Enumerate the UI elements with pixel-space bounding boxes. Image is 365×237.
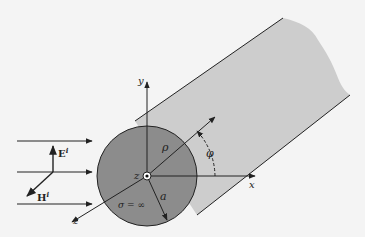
h-field-label: Hi — [37, 190, 49, 203]
x-axis-label: x — [249, 179, 255, 190]
cylinder-scattering-diagram: y x z z ρ φ a σ = ∞ Ei Hi — [0, 0, 365, 237]
conductivity-label: σ = ∞ — [118, 200, 145, 210]
z-axis-label: z — [72, 215, 79, 226]
origin-dot — [145, 174, 148, 177]
y-axis-label: y — [137, 75, 144, 86]
rho-label: ρ — [161, 141, 169, 154]
z-center-label: z — [133, 170, 140, 181]
e-field-label: Ei — [58, 146, 69, 159]
phi-label: φ — [206, 147, 214, 160]
radius-label: a — [160, 190, 167, 203]
